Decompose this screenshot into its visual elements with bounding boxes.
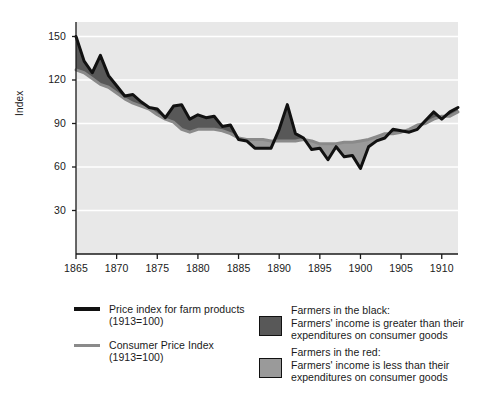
- legend-box-swatch-farmers-in-the-black: [259, 316, 282, 336]
- legend-line-swatch-farm-price-index: [74, 307, 100, 311]
- legend-entry-farmers-in-the-black: Farmers in the black: Farmers' income is…: [259, 304, 464, 342]
- legend-label-farm-price-index-line2: (1913=100): [109, 315, 164, 327]
- x-tick-label: 1875: [137, 262, 177, 274]
- legend-label-farm-price-index-line1: Price index for farm products: [109, 303, 245, 315]
- legend-title-farmers-in-the-red: Farmers in the red:: [291, 346, 449, 359]
- legend-label-consumer-price-index-line1: Consumer Price Index: [109, 339, 214, 351]
- legend-label-farmers-in-the-black-line1: Farmers' income is greater than their: [291, 317, 464, 329]
- y-tick-label: 90: [36, 117, 66, 129]
- x-tick-label: 1880: [178, 262, 218, 274]
- x-tick-label: 1865: [56, 262, 96, 274]
- x-tick-label: 1895: [300, 262, 340, 274]
- y-tick-label: 150: [36, 30, 66, 42]
- y-axis-label: Index: [14, 91, 25, 116]
- legend-label-farmers-in-the-red-line1: Farmers' income is less than their: [291, 359, 449, 371]
- legend-box-swatch-farmers-in-the-red: [259, 358, 282, 378]
- chart-legend: Price index for farm products (1913=100)…: [0, 296, 486, 393]
- legend-label-farmers-in-the-red-line2: expenditures on consumer goods: [291, 371, 448, 383]
- x-tick-label: 1905: [381, 262, 421, 274]
- legend-entry-farmers-in-the-red: Farmers in the red: Farmers' income is l…: [259, 346, 449, 384]
- y-tick-label: 30: [36, 204, 66, 216]
- figure-root: Index 150120906030 186518701875188018851…: [0, 0, 486, 393]
- plot-background: [76, 22, 458, 254]
- legend-entry-consumer-price-index: Consumer Price Index (1913=100): [74, 339, 214, 364]
- legend-entry-farm-price-index: Price index for farm products (1913=100): [74, 303, 245, 328]
- x-tick-label: 1910: [422, 262, 462, 274]
- y-tick-label: 60: [36, 160, 66, 172]
- legend-line-swatch-consumer-price-index: [74, 344, 100, 347]
- x-tick-label: 1885: [219, 262, 259, 274]
- legend-label-consumer-price-index-line2: (1913=100): [109, 351, 164, 363]
- x-tick-label: 1900: [340, 262, 380, 274]
- x-tick-label: 1870: [97, 262, 137, 274]
- x-tick-label: 1890: [259, 262, 299, 274]
- legend-title-farmers-in-the-black: Farmers in the black:: [291, 304, 464, 317]
- legend-label-farmers-in-the-black-line2: expenditures on consumer goods: [291, 329, 448, 341]
- y-tick-label: 120: [36, 73, 66, 85]
